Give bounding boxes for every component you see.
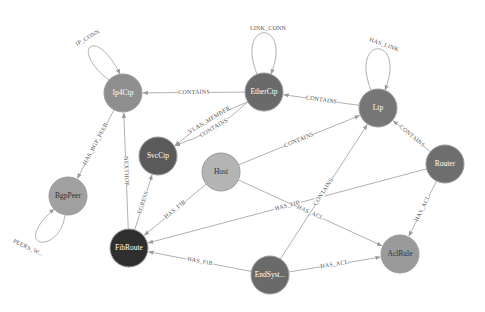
edge-contains[interactable]: CONTAINS — [284, 94, 359, 105]
graph-canvas[interactable]: IP_CONNLINK_CONNHAS_LINKPEERS_W...CONTAI… — [0, 0, 485, 312]
edge-contains[interactable]: CONTAINS — [175, 102, 248, 146]
node-fibroute[interactable]: FibRoute — [110, 229, 148, 267]
edge-label: HAS_FIB — [187, 256, 213, 267]
edge-label-group: HAS_ACL — [413, 194, 432, 223]
edge-label-group: CONTAINS — [178, 88, 210, 95]
edge-label: CONTAINS — [312, 177, 334, 207]
edge-has-fib[interactable]: HAS_FIB — [148, 169, 426, 243]
edge-has-acl[interactable]: HAS_ACL — [409, 181, 437, 236]
edge-nexthop[interactable]: NEXTHOP — [122, 113, 130, 229]
edge-label-group: CONTAINS — [398, 123, 427, 149]
edge-has-fib[interactable]: HAS_FIB — [149, 252, 252, 272]
edge-label-group: IP_CONN — [74, 28, 102, 48]
node-svcctp[interactable]: SvcCtp — [139, 137, 177, 175]
edge-label-group: LINK_CONN — [250, 25, 287, 32]
node-bgppeer[interactable]: BgpPeer — [49, 177, 87, 215]
edge-ip-conn[interactable]: IP_CONN — [74, 28, 120, 80]
edge-label: CONTAINS — [283, 131, 314, 148]
edge-label: NEXTHOP — [123, 156, 130, 186]
edge-label: PEERS_W... — [12, 238, 44, 257]
edge-label-group: CONTAINS — [312, 177, 335, 207]
node-label: SvcCtp — [147, 151, 169, 160]
node-router[interactable]: Router — [426, 145, 464, 183]
edge-has-bgp-peer[interactable]: HAS_BGP_PEER — [77, 110, 114, 179]
edge-label: HAS_BGP_PEER — [82, 122, 109, 166]
edge-has-fib[interactable]: HAS_FIB — [144, 184, 206, 235]
edge-egress[interactable]: EGRESS — [135, 175, 152, 230]
edge-label-group: CONTAINS — [305, 94, 337, 105]
edge-label: HAS_ACL — [413, 194, 431, 222]
node-label: AclRule — [388, 249, 414, 258]
node-host[interactable]: Host — [202, 153, 240, 191]
edge-contains[interactable]: CONTAINS — [393, 121, 430, 152]
edge-label-group: PEERS_W... — [10, 236, 47, 258]
node-label: BgpPeer — [55, 191, 81, 200]
edge-line[interactable] — [175, 102, 248, 146]
edge-line[interactable] — [366, 49, 390, 90]
edge-vlan-member[interactable]: VLAN_MEMBER — [175, 102, 248, 146]
node-label: Host — [214, 167, 229, 176]
edge-label: EGRESS — [136, 190, 149, 214]
edge-line[interactable] — [175, 102, 248, 146]
node-ltp[interactable]: Ltp — [359, 89, 397, 127]
node-etherctp[interactable]: EtherCtp — [245, 73, 283, 111]
edge-label-group: EGRESS — [136, 190, 150, 215]
node-label: Ip4Ctp — [113, 88, 134, 97]
edge-label-group: HAS_BGP_PEER — [81, 122, 109, 167]
node-label: Router — [435, 159, 456, 168]
node-label: Ltp — [373, 103, 384, 112]
edge-line[interactable] — [252, 33, 276, 74]
node-aclrule[interactable]: AclRule — [381, 235, 419, 273]
node-ip4ctp[interactable]: Ip4Ctp — [104, 74, 142, 112]
edge-peers-w-[interactable]: PEERS_W... — [10, 209, 65, 259]
node-label: EtherCtp — [250, 87, 277, 96]
edge-label-group: HAS_FIB — [162, 198, 188, 221]
edge-label-group: NEXTHOP — [122, 156, 130, 186]
node-label: EndSyst... — [255, 270, 286, 279]
edge-link-conn[interactable]: LINK_CONN — [250, 25, 287, 74]
edge-contains[interactable]: CONTAINS — [239, 116, 360, 165]
edge-has-link[interactable]: HAS_LINK — [366, 36, 400, 90]
edge-contains[interactable]: CONTAINS — [143, 88, 245, 95]
edge-label-group: CONTAINS — [283, 131, 315, 149]
node-label: FibRoute — [115, 243, 144, 252]
edge-label-group: HAS_FIB — [186, 255, 215, 267]
edge-label: CONTAINS — [178, 89, 210, 95]
edge-label: IP_CONN — [75, 28, 102, 47]
node-endsyst[interactable]: EndSyst... — [251, 256, 289, 294]
nodes-layer: Ip4CtpEtherCtpLtpSvcCtpHostRouterBgpPeer… — [49, 73, 464, 294]
edge-label: HAS_FIB — [163, 199, 187, 220]
edge-label: LINK_CONN — [250, 25, 287, 31]
edge-line[interactable] — [88, 46, 120, 80]
edge-label-group: HAS_ACL — [320, 258, 349, 269]
edge-has-acl[interactable]: HAS_ACL — [289, 257, 380, 272]
edge-label: CONTAINS — [398, 123, 426, 148]
edges-layer: IP_CONNLINK_CONNHAS_LINKPEERS_W...CONTAI… — [10, 25, 437, 272]
